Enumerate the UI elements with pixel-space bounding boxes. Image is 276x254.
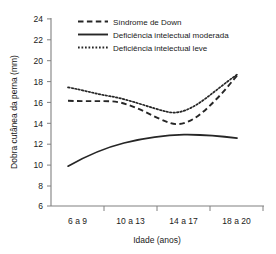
x-tick-label-14a17: 14 a 17 <box>169 216 198 226</box>
line-chart: 24 22 20 18 16 14 12 10 8 6 6 a 9 10 a 1… <box>0 0 276 254</box>
y-tick-label-20: 20 <box>34 56 44 66</box>
series-line-deficiencia-leve <box>68 75 237 113</box>
y-tick-label-12: 12 <box>34 139 44 149</box>
y-tick-label-6: 6 <box>38 201 43 211</box>
series-line-deficiencia-moderada <box>68 135 237 167</box>
y-tick-label-10: 10 <box>34 160 44 170</box>
series-line-sindrome-de-down <box>68 76 237 125</box>
y-axis-ticks <box>47 19 51 206</box>
legend-label-deficiencia-moderada: Deficiência intelectual moderada <box>113 31 229 40</box>
x-tick-label-10a13: 10 a 13 <box>116 216 145 226</box>
y-tick-label-14: 14 <box>34 119 44 129</box>
y-tick-label-18: 18 <box>34 77 44 87</box>
x-axis-title: Idade (anos) <box>133 235 181 245</box>
y-tick-label-16: 16 <box>34 98 44 108</box>
chart-figure: 24 22 20 18 16 14 12 10 8 6 6 a 9 10 a 1… <box>0 0 276 254</box>
chart-legend: Síndrome de Down Deficiência intelectual… <box>78 18 229 53</box>
legend-label-deficiencia-leve: Deficiência intelectual leve <box>113 44 208 53</box>
x-axis-ticks <box>104 206 263 211</box>
y-tick-label-24: 24 <box>34 14 44 24</box>
x-tick-label-18a20: 18 a 20 <box>222 216 251 226</box>
y-tick-label-22: 22 <box>34 35 44 45</box>
x-tick-label-6a9: 6 a 9 <box>68 216 87 226</box>
y-tick-label-8: 8 <box>38 181 43 191</box>
y-axis-title: Dobra cutânea da perna (mm) <box>9 55 19 169</box>
legend-label-sindrome-de-down: Síndrome de Down <box>113 18 181 27</box>
